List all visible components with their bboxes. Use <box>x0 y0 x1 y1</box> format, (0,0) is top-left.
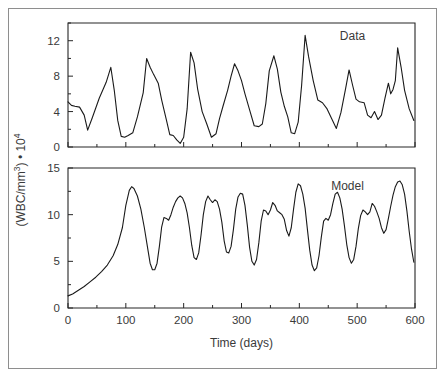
y-tick-label: 8 <box>54 70 60 82</box>
x-tick-label: 500 <box>348 314 367 326</box>
x-tick-label: 300 <box>232 314 251 326</box>
x-tick-label: 600 <box>405 314 424 326</box>
data-curve-data <box>68 35 414 143</box>
y-tick-label: 5 <box>54 255 60 267</box>
x-tick-label: 200 <box>174 314 193 326</box>
y-tick-label: 4 <box>54 106 61 118</box>
x-axis-title-text: Time (days) <box>210 336 273 350</box>
y-tick-label: 0 <box>54 141 60 153</box>
data-curve-model <box>68 181 414 296</box>
y-tick-label: 15 <box>47 162 60 174</box>
y-axis-title-group: (WBC/mm3) • 104 <box>12 133 28 226</box>
x-tick-label: 100 <box>116 314 135 326</box>
panel-label-data-text: Data <box>340 29 366 43</box>
panel-label-model-text: Model <box>331 179 364 193</box>
y-tick-label: 0 <box>54 302 60 314</box>
chart-svg: 04812Data 0510150100200300400500600Model… <box>0 0 445 377</box>
x-tick-label: 0 <box>65 314 71 326</box>
y-tick-label: 12 <box>47 35 60 47</box>
panel-model: 0510150100200300400500600Model <box>47 162 424 326</box>
x-tick-label: 400 <box>290 314 309 326</box>
figure-container: 04812Data 0510150100200300400500600Model… <box>0 0 445 377</box>
panel-data: 04812Data <box>47 23 415 153</box>
y-tick-label: 10 <box>47 209 60 221</box>
y-axis-title-text: (WBC/mm3) • 104 <box>12 133 28 226</box>
